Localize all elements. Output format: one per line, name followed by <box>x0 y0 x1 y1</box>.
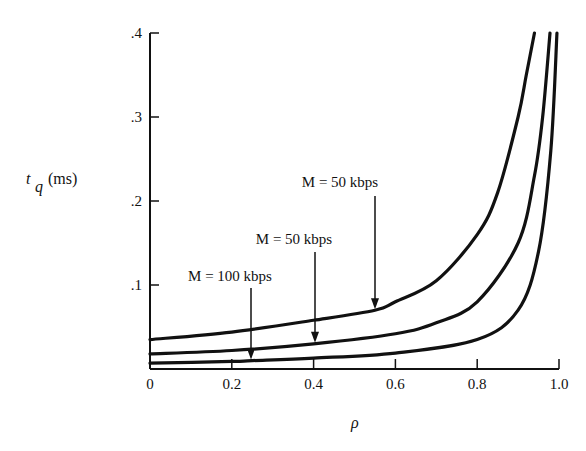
annotation-label: M = 100 kbps <box>188 268 272 284</box>
arrow-head-icon <box>247 349 255 360</box>
x-tick-label: 0 <box>146 376 154 392</box>
x-tick-label: 1.0 <box>550 376 569 392</box>
annotation-label: M = 50 kbps <box>256 231 333 247</box>
x-tick-label: 0.8 <box>468 376 487 392</box>
x-tick-label: 0.2 <box>222 376 241 392</box>
curve-2 <box>150 33 550 354</box>
y-tick-label: .2 <box>131 193 142 209</box>
y-axis-title-subscript: q <box>35 178 43 196</box>
annotation-label: M = 50 kbps <box>302 174 379 190</box>
annotations: M = 100 kbpsM = 50 kbpsM = 50 kbps <box>188 174 379 360</box>
arrow-head-icon <box>371 298 379 309</box>
y-tick-label: .1 <box>131 277 142 293</box>
arrow-head-icon <box>311 332 319 343</box>
axis-titles: t q (ms) ρ <box>26 170 359 432</box>
y-tick-label: .4 <box>131 25 143 41</box>
x-tick-label: 0.4 <box>304 376 323 392</box>
x-axis-title: ρ <box>350 414 359 432</box>
y-axis-title-unit: (ms) <box>48 170 77 188</box>
curves <box>150 33 557 363</box>
queueing-delay-chart: .1.2.3.400.20.40.60.81.0 M = 100 kbpsM =… <box>0 0 586 451</box>
y-axis-title: t <box>26 170 31 187</box>
x-tick-label: 0.6 <box>386 376 405 392</box>
y-tick-label: .3 <box>131 109 142 125</box>
